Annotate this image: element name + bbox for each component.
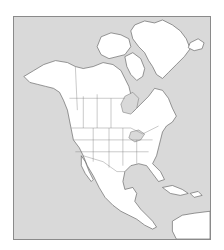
iceland: [188, 39, 204, 51]
north-america-mainland: [24, 61, 176, 229]
baffin-island: [125, 53, 145, 81]
arctic-archipelago: [97, 33, 131, 59]
south-america: [172, 211, 210, 239]
hispaniola: [190, 191, 202, 197]
cuba: [162, 185, 188, 195]
north-america-outline-map: [14, 17, 210, 239]
map-frame: [13, 16, 211, 240]
